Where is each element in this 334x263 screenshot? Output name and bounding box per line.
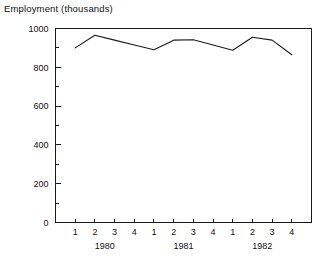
- x-axis-tick-labels: 123412341234: [73, 227, 295, 237]
- y-axis-ticks: [56, 29, 61, 223]
- y-tick-label: 1000: [28, 24, 48, 34]
- employment-series-line: [75, 35, 292, 54]
- x-axis-group-labels: 198019811982: [95, 241, 273, 251]
- plot-frame: [56, 29, 312, 223]
- x-tick-label: 3: [270, 227, 275, 237]
- y-tick-label: 800: [33, 63, 48, 73]
- x-tick-label: 1: [73, 227, 78, 237]
- y-tick-label: 600: [33, 101, 48, 111]
- x-axis-ticks: [75, 219, 292, 223]
- x-tick-label: 2: [92, 227, 97, 237]
- chart-figure: Employment (thousands) 02004006008001000…: [0, 0, 334, 263]
- x-tick-label: 2: [250, 227, 255, 237]
- x-tick-label: 3: [112, 227, 117, 237]
- x-tick-label: 1: [151, 227, 156, 237]
- x-group-label: 1982: [252, 241, 272, 251]
- x-group-label: 1980: [95, 241, 115, 251]
- x-tick-label: 4: [211, 227, 216, 237]
- y-axis-tick-labels: 02004006008001000: [28, 24, 48, 228]
- x-tick-label: 4: [289, 227, 294, 237]
- x-tick-label: 3: [191, 227, 196, 237]
- x-tick-label: 1: [230, 227, 235, 237]
- y-tick-label: 200: [33, 179, 48, 189]
- y-tick-label: 0: [43, 218, 48, 228]
- x-tick-label: 2: [171, 227, 176, 237]
- y-tick-label: 400: [33, 140, 48, 150]
- x-group-label: 1981: [173, 241, 193, 251]
- x-tick-label: 4: [132, 227, 137, 237]
- employment-line-chart: 02004006008001000 123412341234 198019811…: [0, 0, 334, 263]
